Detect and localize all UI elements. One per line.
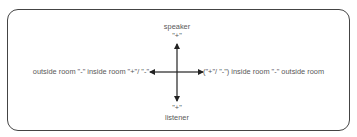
listener-label: listener bbox=[165, 114, 189, 121]
speaker-label: speaker bbox=[164, 23, 190, 30]
right-axis-text: ("+"/ "-") inside room "-" outside room bbox=[203, 68, 324, 75]
left-axis-text: outside room "-" inside room "+"/ "-" bbox=[33, 68, 149, 75]
listener-sign: "+" bbox=[172, 104, 182, 111]
speaker-sign: "+" bbox=[172, 32, 182, 39]
